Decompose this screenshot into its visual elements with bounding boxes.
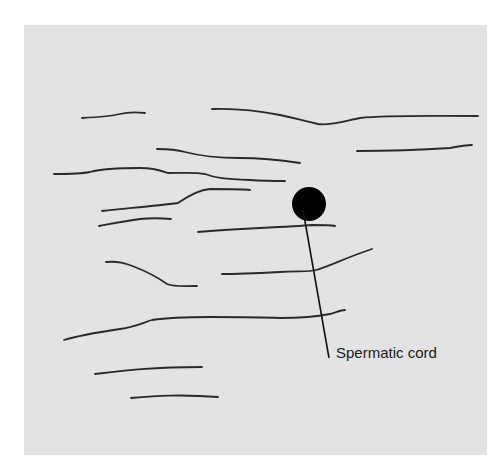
anatomical-diagram — [0, 0, 498, 457]
fiber-line — [198, 225, 335, 232]
spermatic-cord-circle — [292, 187, 326, 221]
fiber-line — [54, 168, 285, 181]
fiber-line — [102, 189, 250, 211]
fiber-line — [82, 112, 145, 118]
fiber-line — [99, 218, 171, 226]
fiber-line — [95, 367, 202, 374]
fiber-line — [222, 249, 372, 274]
spermatic-cord-label: Spermatic cord — [336, 344, 437, 361]
fiber-line — [157, 149, 300, 163]
fiber-line — [131, 395, 218, 398]
fiber-line — [106, 262, 197, 286]
fiber-line — [357, 145, 472, 151]
fiber-line — [212, 109, 478, 125]
label-leader-line — [303, 210, 329, 358]
fiber-line — [64, 310, 345, 340]
